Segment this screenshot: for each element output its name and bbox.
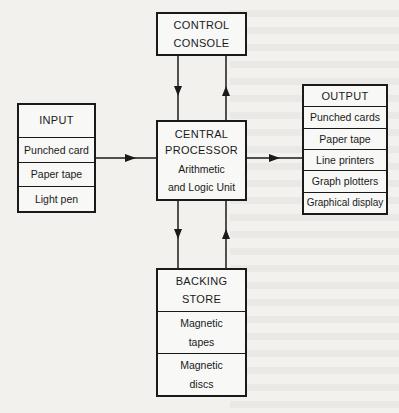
title-text: BACKING	[176, 276, 228, 287]
item-text: Magnetic	[180, 360, 223, 371]
arrow-down-icon	[174, 229, 182, 239]
item-text: Light pen	[35, 194, 78, 205]
arrow-up-icon	[222, 86, 230, 96]
output-title: OUTPUT	[304, 86, 386, 106]
output-box: OUTPUT Punched cards Paper tape Line pri…	[302, 84, 388, 215]
item-text: Paper tape	[319, 134, 370, 145]
backing-store-box: BACKING STORE Magnetic tapes Magnetic di…	[156, 268, 247, 397]
output-item: Graphical display	[304, 192, 386, 213]
input-item: Light pen	[19, 186, 94, 211]
input-item: Punched card	[19, 137, 94, 162]
central-processor-box: CENTRAL PROCESSOR Arithmetic and Logic U…	[156, 120, 247, 201]
label-line: CENTRAL	[175, 129, 228, 140]
arrow-down-icon	[174, 86, 182, 96]
title-text: OUTPUT	[321, 91, 368, 102]
output-item: Paper tape	[304, 128, 386, 149]
item-text: Punched cards	[310, 112, 380, 123]
arrow-right-icon	[269, 154, 280, 162]
central-processor-label: CENTRAL PROCESSOR Arithmetic and Logic U…	[158, 122, 245, 199]
label-line: CONTROL	[174, 20, 230, 31]
input-title: INPUT	[19, 105, 94, 137]
label-line: PROCESSOR	[165, 145, 238, 156]
control-console-label: CONTROL CONSOLE	[158, 14, 245, 54]
item-text: Punched card	[24, 145, 89, 156]
input-box: INPUT Punched card Paper tape Light pen	[17, 103, 96, 213]
arrow-up-icon	[222, 229, 230, 239]
label-line: and Logic Unit	[168, 182, 235, 193]
item-text: Paper tape	[31, 169, 82, 180]
label-line: CONSOLE	[174, 38, 230, 49]
item-text: Magnetic	[180, 318, 223, 329]
backing-store-title: BACKING STORE	[158, 270, 245, 311]
item-text: Graph plotters	[312, 176, 379, 187]
item-text: Line printers	[316, 155, 374, 166]
output-item: Line printers	[304, 149, 386, 170]
title-text: STORE	[182, 294, 221, 305]
backing-store-item: Magnetic tapes	[158, 311, 245, 353]
title-text: INPUT	[39, 115, 74, 126]
control-console-box: CONTROL CONSOLE	[156, 12, 247, 56]
backing-store-item: Magnetic discs	[158, 353, 245, 395]
output-item: Graph plotters	[304, 170, 386, 191]
input-item: Paper tape	[19, 162, 94, 187]
label-line: Arithmetic	[178, 164, 225, 175]
arrow-right-icon	[125, 154, 136, 162]
item-text: Graphical display	[307, 198, 384, 208]
item-text: tapes	[189, 337, 215, 348]
item-text: discs	[190, 379, 214, 390]
output-item: Punched cards	[304, 106, 386, 127]
